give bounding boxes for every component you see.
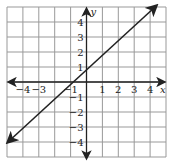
x-tick-label: 4 — [147, 84, 153, 95]
x-tick-label: −4 — [16, 84, 31, 95]
y-tick-label: 4 — [77, 17, 83, 28]
y-tick-label: 2 — [77, 47, 83, 58]
y-tick-label: 1 — [77, 62, 83, 73]
y-tick-label: −4 — [69, 137, 84, 148]
graph: −4−3−112344321−1−2−3−4xy — [0, 0, 171, 167]
x-tick-label: −3 — [31, 84, 46, 95]
y-tick-label: −2 — [69, 107, 84, 118]
x-axis-label: x — [160, 84, 166, 95]
y-tick-label: 3 — [77, 32, 83, 43]
x-tick-label: 1 — [99, 84, 105, 95]
y-tick-label: −3 — [69, 122, 84, 133]
x-tick-label: 2 — [115, 84, 121, 95]
x-tick-label: 3 — [131, 84, 137, 95]
y-tick-label: −1 — [69, 92, 84, 103]
y-axis-label: y — [90, 6, 97, 17]
